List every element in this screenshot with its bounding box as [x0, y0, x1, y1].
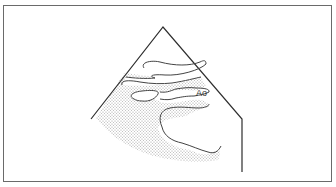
echo-sector-diagram: [0, 0, 336, 187]
label-aorta: Ao: [196, 88, 207, 98]
tissue-shading: [96, 73, 220, 162]
